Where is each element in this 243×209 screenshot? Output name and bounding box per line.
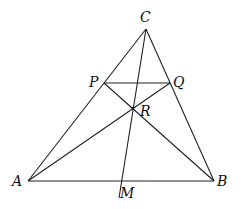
segment-bp <box>104 83 214 181</box>
point-r <box>132 107 135 110</box>
label-c: C <box>140 9 151 25</box>
geometry-diagram: C P Q R A B M <box>0 0 243 209</box>
segment-bc <box>146 29 214 181</box>
label-p: P <box>88 74 99 90</box>
label-q: Q <box>173 74 185 90</box>
label-m: M <box>119 185 135 201</box>
label-r: R <box>139 103 151 119</box>
label-a: A <box>10 173 22 189</box>
label-b: B <box>216 173 227 189</box>
segment-aq <box>28 83 170 181</box>
